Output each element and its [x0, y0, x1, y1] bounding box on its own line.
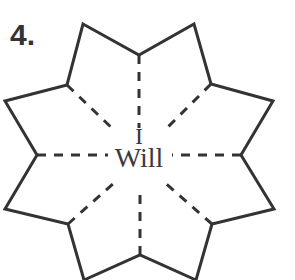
fold-line-bottom-left [68, 182, 115, 224]
fold-line-bottom-right [164, 182, 212, 224]
center-text-will: Will [0, 144, 278, 172]
